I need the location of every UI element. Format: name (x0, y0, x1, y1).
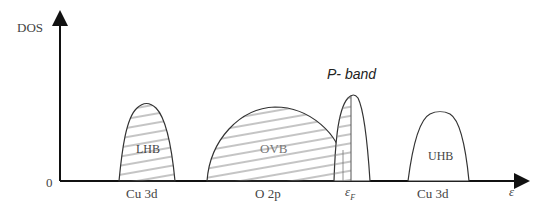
cu3d-lhb-tick-label: Cu 3d (126, 186, 157, 202)
fermi-tick-label: εF (345, 184, 355, 202)
dos-diagram (0, 0, 551, 211)
ovb-label: OVB (260, 141, 287, 157)
origin-label: 0 (46, 175, 53, 191)
p-band-hatched-part (334, 96, 351, 181)
x-axis-label: ε (509, 184, 514, 200)
uhb-label: UHB (428, 149, 453, 164)
y-axis-label: DOS (17, 20, 43, 36)
cu3d-uhb-tick-label: Cu 3d (417, 186, 448, 202)
o2p-tick-label: O 2p (255, 186, 281, 202)
lhb-label: LHB (136, 142, 160, 157)
uhb-band (408, 112, 469, 181)
p-band-label: P- band (327, 66, 376, 82)
